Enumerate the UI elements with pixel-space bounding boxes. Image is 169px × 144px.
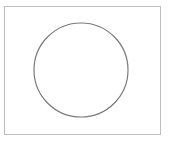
circle-shape — [34, 23, 128, 117]
diagram-canvas — [0, 0, 169, 144]
